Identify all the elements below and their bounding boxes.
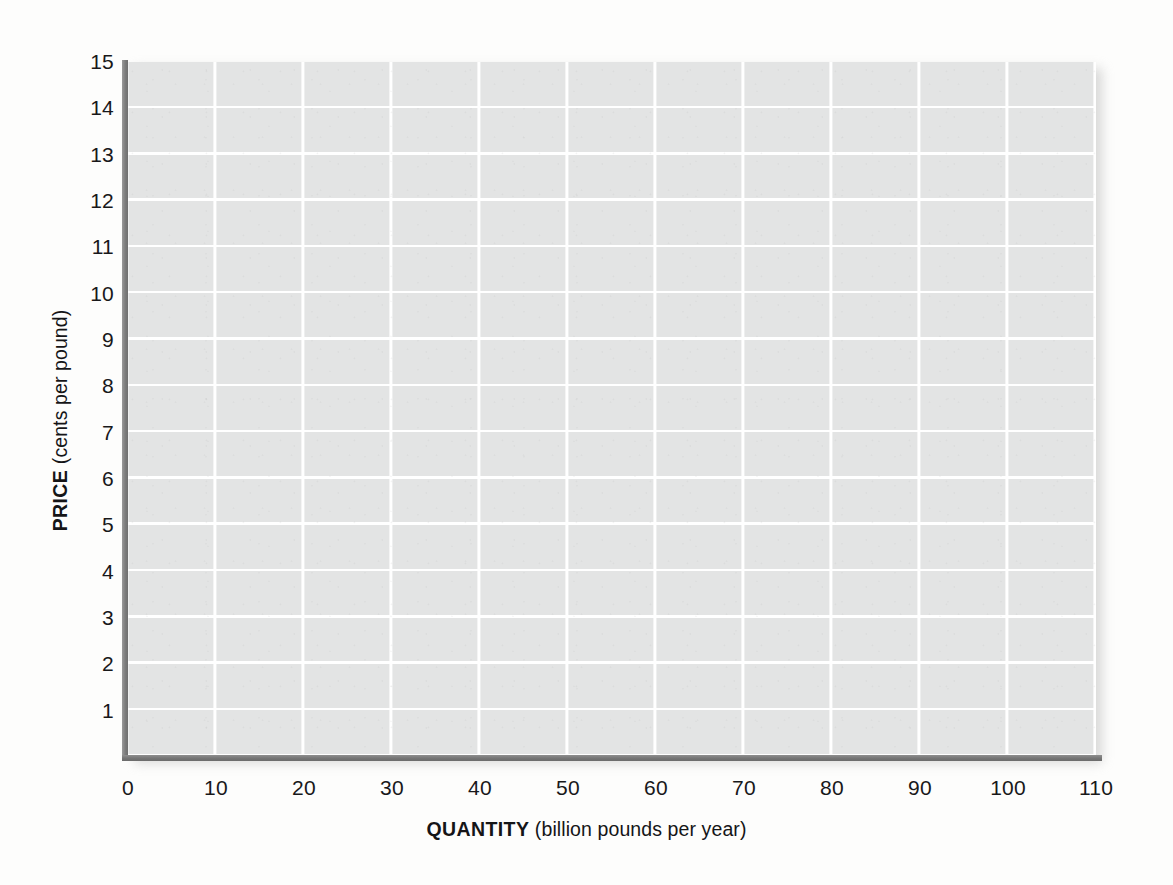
x-tick-label: 50: [556, 776, 580, 800]
x-tick-label: 80: [820, 776, 844, 800]
y-axis-title-bold: PRICE: [49, 470, 71, 532]
x-tick-label: 70: [732, 776, 756, 800]
y-tick-label: 4: [102, 560, 114, 584]
x-tick-label: 30: [380, 776, 404, 800]
x-axis-title-unit: (billion pounds per year): [529, 818, 746, 840]
x-tick-label: 0: [122, 776, 134, 800]
y-tick-label: 6: [102, 467, 114, 491]
x-axis-title-bold: QUANTITY: [426, 818, 529, 840]
x-tick-label: 100: [990, 776, 1026, 800]
y-tick-label: 14: [90, 96, 114, 120]
y-tick-label: 12: [90, 189, 114, 213]
y-tick-label: 5: [102, 513, 114, 537]
grid-lines: [128, 62, 1096, 757]
x-tick-label: 110: [1079, 776, 1113, 800]
y-axis-title-unit: (cents per pound): [49, 310, 71, 470]
y-tick-label: 7: [102, 421, 114, 445]
x-tick-label: 40: [468, 776, 492, 800]
y-tick-label: 10: [90, 282, 114, 306]
x-tick-label: 60: [644, 776, 668, 800]
x-axis-line: [122, 755, 1102, 761]
plot-area[interactable]: [128, 62, 1096, 757]
y-tick-label: 3: [102, 606, 114, 630]
x-tick-label: 90: [908, 776, 932, 800]
y-tick-label: 8: [102, 374, 114, 398]
y-tick-label: 1: [102, 699, 114, 723]
y-axis-line: [122, 60, 128, 761]
x-tick-label: 10: [204, 776, 228, 800]
x-tick-label: 20: [292, 776, 316, 800]
y-tick-label: 9: [102, 328, 114, 352]
x-axis-title: QUANTITY (billion pounds per year): [0, 818, 1173, 841]
y-tick-label: 11: [92, 235, 114, 259]
y-tick-label: 13: [90, 143, 114, 167]
y-tick-label: 15: [90, 50, 114, 74]
y-tick-label: 2: [102, 652, 114, 676]
y-axis-title: PRICE (cents per pound): [49, 241, 72, 601]
blank-graph-figure: 123456789101112131415 010203040506070809…: [0, 0, 1173, 885]
